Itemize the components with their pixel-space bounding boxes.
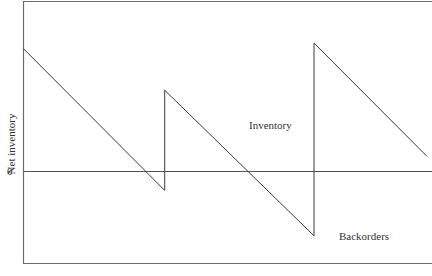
zero-tick-label: 0 (7, 164, 13, 178)
backorders-annotation: Backorders (339, 229, 389, 243)
net-inventory-series (24, 43, 428, 236)
inventory-annotation: Inventory (249, 118, 292, 132)
